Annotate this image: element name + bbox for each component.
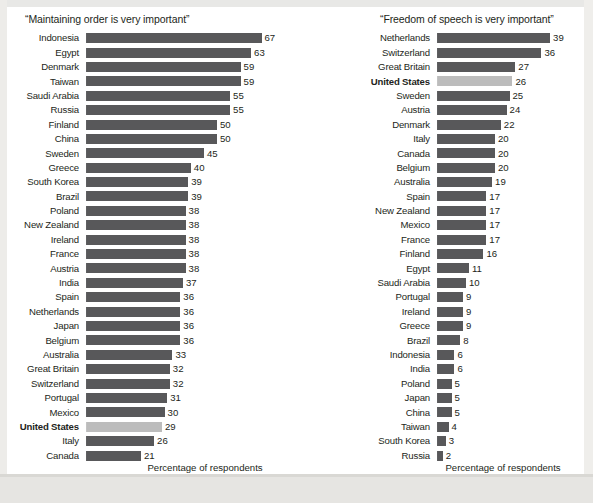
bar-track: 38: [86, 261, 340, 275]
bar-track: 38: [86, 247, 340, 261]
bar-track: 37: [86, 276, 340, 290]
bar-value-label: 24: [507, 105, 521, 115]
bar-value-label: 19: [492, 177, 506, 187]
bar: [86, 422, 162, 432]
bar-row: Saudi Arabia10: [355, 276, 587, 290]
bar: [437, 191, 486, 201]
bar-value-label: 31: [167, 393, 181, 403]
bar: [86, 307, 180, 317]
bar: [437, 379, 452, 389]
bar-track: 19: [437, 175, 587, 189]
bar: [437, 76, 512, 86]
bar-track: 29: [86, 420, 340, 434]
bar-row: South Korea39: [10, 175, 340, 189]
bar: [437, 48, 541, 58]
bar-value-label: 55: [230, 105, 244, 115]
bar-row-label: Finland: [10, 120, 86, 130]
bar: [86, 436, 154, 446]
bar-row: Indonesia6: [355, 348, 587, 362]
bar-track: 31: [86, 391, 340, 405]
bar: [437, 177, 492, 187]
bar-track: 10: [437, 276, 587, 290]
page-edge-top: [0, 0, 593, 7]
bar-track: 20: [437, 161, 587, 175]
bar-row-label: Mexico: [355, 220, 437, 230]
bar-row-label: Ireland: [10, 235, 86, 245]
bar: [437, 335, 460, 345]
bar-row-label: Indonesia: [10, 33, 86, 43]
bar-track: 38: [86, 204, 340, 218]
bar-value-label: 63: [251, 48, 265, 58]
bar-row: China50: [10, 132, 340, 146]
bar-track: 63: [86, 45, 340, 59]
bar-row-label: Netherlands: [10, 307, 86, 317]
bar-track: 39: [86, 175, 340, 189]
bar-value-label: 3: [446, 436, 454, 446]
bar-row-label: United States: [10, 422, 86, 432]
bar-value-label: 2: [443, 451, 451, 461]
bar-track: 17: [437, 232, 587, 246]
bar-row-label: Japan: [355, 393, 437, 403]
bar-row: Denmark22: [355, 117, 587, 131]
bar-value-label: 9: [463, 307, 471, 317]
scanned-page: “Maintaining order is very important” In…: [0, 0, 593, 503]
bar-track: 33: [86, 348, 340, 362]
bar-row: Belgium36: [10, 333, 340, 347]
bar: [437, 436, 446, 446]
bar-track: 32: [86, 376, 340, 390]
bar-track: 9: [437, 319, 587, 333]
bar-value-label: 8: [460, 336, 468, 346]
bar-track: 5: [437, 376, 587, 390]
bar-value-label: 38: [186, 249, 200, 259]
bar-row: Belgium20: [355, 161, 587, 175]
bar-row: Russia55: [10, 103, 340, 117]
bar-row-label: Switzerland: [355, 48, 437, 58]
bar-value-label: 39: [550, 33, 564, 43]
bar-value-label: 26: [154, 436, 168, 446]
bar-value-label: 38: [186, 206, 200, 216]
bar-value-label: 38: [186, 264, 200, 274]
bar-row-label: Egypt: [10, 48, 86, 58]
bar-row: Sweden45: [10, 146, 340, 160]
bar: [437, 393, 452, 403]
bar-value-label: 32: [170, 379, 184, 389]
bar-row-label: South Korea: [355, 436, 437, 446]
bar-row-label: Egypt: [355, 264, 437, 274]
bar-row-label: China: [355, 408, 437, 418]
bar-row: Netherlands39: [355, 31, 587, 45]
bar: [86, 350, 172, 360]
bar: [86, 48, 251, 58]
bar-value-label: 29: [162, 422, 176, 432]
bar-row: India6: [355, 362, 587, 376]
bar: [437, 163, 495, 173]
bar-row-label: China: [10, 134, 86, 144]
bar-value-label: 55: [230, 91, 244, 101]
bar-value-label: 36: [180, 336, 194, 346]
bar-value-label: 36: [180, 292, 194, 302]
bar-row-label: Sweden: [10, 149, 86, 159]
bar: [437, 307, 463, 317]
bar-row: Taiwan59: [10, 74, 340, 88]
bar-value-label: 37: [183, 278, 197, 288]
bar-row: Denmark59: [10, 60, 340, 74]
bar-row: Egypt11: [355, 261, 587, 275]
bar: [437, 91, 510, 101]
bar-row: Canada20: [355, 146, 587, 160]
bar-row-label: Sweden: [355, 91, 437, 101]
bar-row: France38: [10, 247, 340, 261]
bar-value-label: 9: [463, 292, 471, 302]
bar-value-label: 36: [180, 321, 194, 331]
bar-track: 45: [86, 146, 340, 160]
bar: [86, 278, 183, 288]
bar-value-label: 17: [486, 206, 500, 216]
bar-row: United States26: [355, 74, 587, 88]
bar-row-label: Australia: [355, 177, 437, 187]
bar-value-label: 4: [449, 422, 457, 432]
bar-row-label: Saudi Arabia: [10, 91, 86, 101]
bar-row-label: Mexico: [10, 408, 86, 418]
bar-track: 59: [86, 60, 340, 74]
bar-row-label: Belgium: [10, 336, 86, 346]
bar-value-label: 38: [186, 235, 200, 245]
axis-caption-freedom-line1: Percentage of respondents: [413, 462, 593, 475]
bar: [437, 364, 454, 374]
